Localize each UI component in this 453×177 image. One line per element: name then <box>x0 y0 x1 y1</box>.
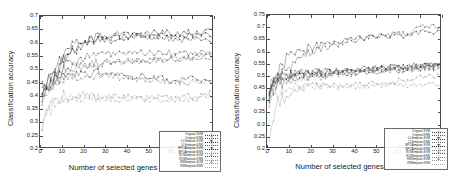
series-marker <box>188 93 189 94</box>
series-marker <box>132 76 133 77</box>
series-marker <box>175 38 176 39</box>
series-marker <box>411 33 412 34</box>
y-tick-label: 0.25 <box>27 133 38 139</box>
series-marker <box>67 73 68 74</box>
plot-area-left: 0.20.250.30.350.40.450.50.550.60.650.701… <box>39 15 213 148</box>
series-line <box>42 52 212 91</box>
series-marker <box>158 76 159 77</box>
series-marker <box>115 40 116 41</box>
series-marker <box>201 50 202 51</box>
series-marker <box>420 84 421 85</box>
series-marker <box>359 71 360 72</box>
series-marker <box>149 81 150 82</box>
series-marker <box>295 74 296 75</box>
series-marker <box>377 83 378 84</box>
x-tick-mark <box>355 15 356 18</box>
series-marker <box>290 88 291 89</box>
series-marker <box>50 87 51 88</box>
series-marker <box>299 71 300 72</box>
series-marker <box>433 82 434 83</box>
series-marker <box>162 95 163 96</box>
series-marker <box>403 69 404 70</box>
series-marker <box>119 97 120 98</box>
series-marker <box>166 100 167 101</box>
series-marker <box>162 100 163 101</box>
y-tick-label: 0.55 <box>254 61 265 67</box>
series-marker <box>145 36 146 37</box>
series-marker <box>295 70 296 71</box>
series-marker <box>329 86 330 87</box>
series-marker <box>420 26 421 27</box>
series-marker <box>290 78 291 79</box>
series-marker <box>273 77 274 78</box>
series-marker <box>381 33 382 34</box>
series-marker <box>299 57 300 58</box>
series-marker <box>320 88 321 89</box>
series-marker <box>171 57 172 58</box>
series-marker <box>381 87 382 88</box>
x-tick-label: 10 <box>59 149 65 155</box>
series-marker <box>368 67 369 68</box>
series-marker <box>119 102 120 103</box>
series-marker <box>50 89 51 90</box>
series-marker <box>149 63 150 64</box>
series-marker <box>364 70 365 71</box>
series-marker <box>390 67 391 68</box>
x-tick-mark <box>84 145 85 148</box>
series-marker <box>320 76 321 77</box>
series-marker <box>325 84 326 85</box>
series-marker <box>381 69 382 70</box>
series-marker <box>59 77 60 78</box>
series-marker <box>398 69 399 70</box>
series-marker <box>162 54 163 55</box>
series-marker <box>136 77 137 78</box>
series-marker <box>42 130 43 131</box>
series-marker <box>398 31 399 32</box>
y-tick-mark <box>267 76 270 77</box>
series-marker <box>80 78 81 79</box>
series-marker <box>89 77 90 78</box>
series-marker <box>183 56 184 57</box>
series-marker <box>192 100 193 101</box>
series-marker <box>123 34 124 35</box>
series-marker <box>72 99 73 100</box>
y-tick-mark <box>40 96 43 97</box>
series-marker <box>97 94 98 95</box>
series-marker <box>128 99 129 100</box>
series-marker <box>299 77 300 78</box>
series-marker <box>355 42 356 43</box>
y-axis-label-right: Classification accuracy <box>232 24 241 128</box>
series-marker <box>303 50 304 51</box>
series-line <box>42 90 212 131</box>
series-marker <box>110 43 111 44</box>
x-tick-mark <box>40 16 41 19</box>
series-marker <box>153 34 154 35</box>
series-marker <box>110 97 111 98</box>
series-marker <box>273 120 274 121</box>
series-marker <box>329 87 330 88</box>
series-marker <box>346 39 347 40</box>
series-marker <box>162 30 163 31</box>
series-marker <box>67 54 68 55</box>
series-marker <box>385 68 386 69</box>
series-marker <box>295 73 296 74</box>
series-marker <box>179 100 180 101</box>
series-marker <box>338 74 339 75</box>
series-marker <box>115 101 116 102</box>
y-tick-mark <box>267 64 270 65</box>
series-marker <box>192 59 193 60</box>
series-marker <box>110 63 111 64</box>
x-tick-label: 50 <box>146 149 152 155</box>
series-marker <box>67 60 68 61</box>
series-marker <box>158 80 159 81</box>
series-marker <box>351 40 352 41</box>
series-marker <box>290 94 291 95</box>
series-marker <box>407 33 408 34</box>
x-tick-mark <box>267 145 268 148</box>
series-marker <box>381 72 382 73</box>
x-tick-label: 0 <box>38 149 41 155</box>
series-marker <box>368 38 369 39</box>
y-tick-mark <box>210 109 213 110</box>
series-marker <box>179 39 180 40</box>
series-marker <box>192 54 193 55</box>
